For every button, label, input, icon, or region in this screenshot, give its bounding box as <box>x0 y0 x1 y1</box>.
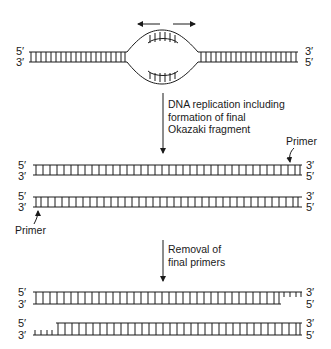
replication-bubble <box>127 30 198 84</box>
mid1-right-5prime: 5′ <box>306 171 314 182</box>
step2-line-1: Removal of <box>168 243 225 256</box>
top-right-duplex <box>198 52 298 62</box>
top-left-3prime: 3′ <box>16 57 24 68</box>
mid2-left-3prime: 3′ <box>18 202 26 213</box>
step1-line-2: formation of final <box>168 111 285 124</box>
dna-diagram <box>0 0 331 349</box>
bottom-duplex-1 <box>33 292 302 304</box>
primer-label-left: Primer <box>15 224 46 237</box>
step1-label: DNA replication including formation of f… <box>168 98 285 136</box>
bot1-right-3prime: 3′ <box>306 287 314 298</box>
bot1-left-5prime: 5′ <box>18 287 26 298</box>
mid1-left-3prime: 3′ <box>18 171 26 182</box>
bot2-right-3prime: 3′ <box>306 318 314 329</box>
bottom-duplex-2 <box>33 323 302 335</box>
bot1-left-3prime: 3′ <box>18 299 26 310</box>
primer-label-right: Primer <box>286 135 317 148</box>
top-right-5prime: 5′ <box>305 57 313 68</box>
middle-duplex-2 <box>33 197 302 224</box>
bot2-left-3prime: 3′ <box>18 330 26 341</box>
top-left-duplex <box>29 52 127 62</box>
bot2-right-5prime: 5′ <box>306 330 314 341</box>
step1-line-1: DNA replication including <box>168 98 285 111</box>
bot2-left-5prime: 5′ <box>18 318 26 329</box>
mid2-right-5prime: 5′ <box>306 202 314 213</box>
step2-label: Removal of final primers <box>168 243 225 268</box>
step2-line-2: final primers <box>168 256 225 269</box>
middle-duplex-1 <box>33 148 302 175</box>
bot1-right-5prime: 5′ <box>306 299 314 310</box>
step1-line-3: Okazaki fragment <box>168 123 285 136</box>
